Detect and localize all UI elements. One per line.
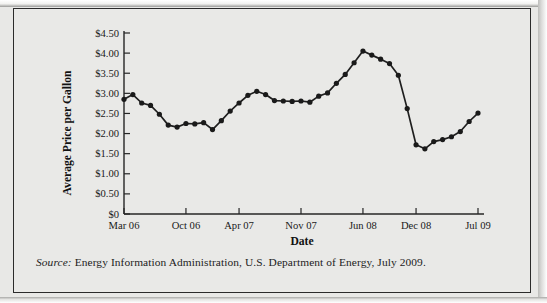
data-point: [475, 110, 480, 115]
data-point: [263, 92, 268, 97]
price-series-markers: [121, 49, 480, 152]
data-point: [148, 103, 153, 108]
data-point: [290, 99, 295, 104]
y-tick-label: $2.50: [95, 108, 119, 119]
data-point: [458, 129, 463, 134]
y-tick-label: $4.50: [95, 28, 119, 39]
source-label: Source:: [36, 256, 72, 268]
figure-box: $0$0.50$1.00$1.50$2.00$2.50$3.00$3.50$4.…: [13, 8, 531, 293]
data-point: [431, 139, 436, 144]
source-text: Energy Information Administration, U.S. …: [72, 256, 426, 268]
scanned-page: $0$0.50$1.00$1.50$2.00$2.50$3.00$3.50$4.…: [0, 0, 547, 303]
data-point: [166, 123, 171, 128]
data-point: [192, 121, 197, 126]
x-tick-label: Oct 06: [172, 220, 201, 231]
data-point: [281, 98, 286, 103]
data-point: [422, 146, 427, 151]
data-point: [219, 118, 224, 123]
data-point: [467, 119, 472, 124]
data-point: [175, 125, 180, 130]
data-point: [157, 112, 162, 117]
source-caption: Source: Energy Information Administratio…: [36, 256, 520, 268]
x-axis-ticks: Mar 06Oct 06Apr 07Nov 07Jun 08Dec 08Jul …: [109, 208, 491, 231]
x-tick-label: Jul 09: [465, 220, 491, 231]
x-tick-label: Jun 08: [349, 220, 377, 231]
y-tick-label: $1.50: [95, 148, 119, 159]
y-axis-title: Average Price per Gallon: [61, 70, 74, 195]
data-point: [387, 61, 392, 66]
data-point: [316, 94, 321, 99]
x-tick-label: Mar 06: [109, 220, 140, 231]
data-point: [360, 49, 365, 54]
data-point: [272, 98, 277, 103]
y-tick-label: $0: [108, 209, 119, 220]
data-point: [405, 106, 410, 111]
data-point: [307, 100, 312, 105]
page-top-edge: [0, 0, 547, 7]
data-point: [378, 57, 383, 62]
data-point: [210, 127, 215, 132]
y-axis-ticks: $0$0.50$1.00$1.50$2.00$2.50$3.00$3.50$4.…: [95, 28, 130, 220]
data-point: [396, 73, 401, 78]
page-right-edge: [538, 0, 547, 303]
data-point: [228, 108, 233, 113]
x-tick-label: Dec 08: [401, 220, 431, 231]
data-point: [334, 81, 339, 86]
y-tick-label: $2.00: [95, 128, 119, 139]
x-tick-label: Nov 07: [285, 220, 317, 231]
data-point: [236, 100, 241, 105]
data-point: [440, 137, 445, 142]
data-point: [130, 92, 135, 97]
x-tick-label: Apr 07: [224, 220, 254, 231]
data-point: [201, 120, 206, 125]
page-bottom-edge: [0, 297, 547, 303]
y-tick-label: $3.50: [95, 68, 119, 79]
y-tick-label: $1.00: [95, 168, 119, 179]
data-point: [298, 98, 303, 103]
y-tick-label: $4.00: [95, 48, 119, 59]
data-point: [352, 60, 357, 65]
y-tick-label: $0.50: [95, 188, 119, 199]
data-point: [183, 121, 188, 126]
chart-canvas: $0$0.50$1.00$1.50$2.00$2.50$3.00$3.50$4.…: [14, 9, 530, 249]
data-point: [254, 89, 259, 94]
line-chart: $0$0.50$1.00$1.50$2.00$2.50$3.00$3.50$4.…: [14, 9, 530, 249]
data-point: [245, 93, 250, 98]
y-tick-label: $3.00: [95, 88, 119, 99]
data-point: [413, 142, 418, 147]
data-point: [325, 90, 330, 95]
data-point: [139, 100, 144, 105]
data-point: [369, 53, 374, 58]
data-point: [449, 134, 454, 139]
data-point: [121, 97, 126, 102]
x-axis-title: Date: [290, 235, 313, 248]
data-point: [343, 72, 348, 77]
